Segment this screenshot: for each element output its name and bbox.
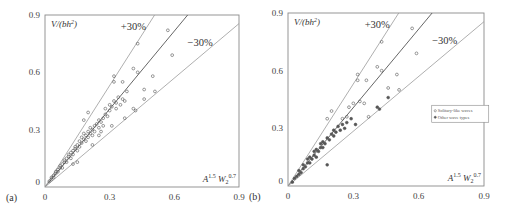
y-axis-title: V/(bh2) bbox=[294, 17, 320, 27]
reference-line-minus30 bbox=[45, 24, 239, 187]
minus30-label: −30% bbox=[188, 37, 213, 48]
y-tick-label: 0.3 bbox=[29, 125, 41, 135]
plus30-label: +30% bbox=[121, 21, 146, 32]
figure: 00.30.60.900.30.60.9(a)V/(bh2)A1.5 W20.7… bbox=[0, 0, 508, 208]
legend-entry: Other wave types bbox=[438, 115, 470, 120]
plus30-label: +30% bbox=[365, 19, 390, 30]
y-axis-title: V/(bh2) bbox=[51, 19, 77, 29]
y-tick-label: 0.9 bbox=[29, 10, 41, 20]
x-tick-label: 0.6 bbox=[413, 191, 425, 201]
x-tick-label: 0.9 bbox=[233, 192, 245, 202]
x-axis-title: A1.5 W20.7 bbox=[447, 172, 481, 184]
x-tick-label: 0.6 bbox=[169, 192, 181, 202]
data-points bbox=[48, 29, 174, 183]
y-tick-label: 0.6 bbox=[272, 66, 284, 76]
y-tick-label: 0.9 bbox=[272, 8, 284, 18]
reference-line-minus30 bbox=[288, 22, 484, 186]
panel-label: (b) bbox=[249, 191, 261, 203]
chart-panel-b: 00.30.60.900.30.60.9(b)V/(bh2)A1.5 W20.7… bbox=[249, 0, 490, 203]
x-tick-label: 0 bbox=[43, 192, 48, 202]
x-axis-title: A1.5 W20.7 bbox=[202, 173, 236, 185]
minus30-label: −30% bbox=[432, 35, 457, 46]
x-tick-label: 0 bbox=[286, 191, 291, 201]
y-tick-label: 0.6 bbox=[29, 67, 41, 77]
y-tick-label: 0.3 bbox=[272, 123, 284, 133]
panel-label: (a) bbox=[6, 192, 17, 204]
legend-entry: Solitary-like waves bbox=[438, 108, 473, 113]
x-tick-label: 0.3 bbox=[104, 192, 116, 202]
x-tick-label: 0.3 bbox=[348, 191, 360, 201]
x-tick-label: 0.9 bbox=[478, 191, 490, 201]
legend: Solitary-like wavesOther wave types bbox=[432, 105, 489, 122]
y-tick-label: 0 bbox=[36, 177, 41, 187]
y-tick-label: 0 bbox=[279, 176, 284, 186]
chart-panel-a: 00.30.60.900.30.60.9(a)V/(bh2)A1.5 W20.7… bbox=[6, 0, 245, 204]
